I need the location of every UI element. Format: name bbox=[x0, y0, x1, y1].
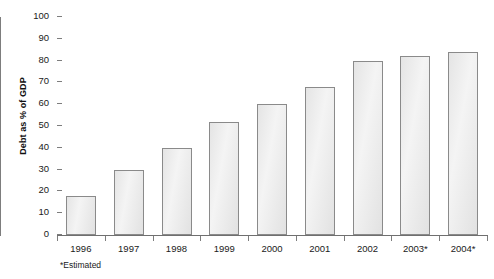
x-axis-tick-mark bbox=[391, 236, 392, 241]
bar bbox=[448, 52, 478, 235]
x-axis-tick-mark bbox=[296, 236, 297, 241]
y-axis-tick-label: 50 bbox=[38, 119, 49, 130]
plot-area: 1009080706050403020100 bbox=[57, 17, 487, 235]
x-axis-tick-mark bbox=[344, 236, 345, 241]
bar-column bbox=[57, 17, 105, 235]
bar-column bbox=[153, 17, 201, 235]
x-axis-tick-mark bbox=[248, 236, 249, 241]
bar bbox=[353, 61, 383, 235]
y-axis-tick-label: 90 bbox=[38, 32, 49, 43]
bar bbox=[162, 148, 192, 235]
bar bbox=[114, 170, 144, 235]
bar bbox=[209, 122, 239, 235]
bar-chart: Debt as % of GDP 1009080706050403020100 … bbox=[0, 0, 494, 279]
bar-column bbox=[296, 17, 344, 235]
y-axis-tick-label: 0 bbox=[44, 228, 49, 239]
x-axis-tick-mark bbox=[57, 236, 58, 241]
x-axis-tick-mark bbox=[153, 236, 154, 241]
x-axis-tick-mark bbox=[105, 236, 106, 241]
bar-column bbox=[391, 17, 439, 235]
bar-column bbox=[200, 17, 248, 235]
x-axis-tick-mark bbox=[439, 236, 440, 241]
y-axis-tick-label: 70 bbox=[38, 75, 49, 86]
y-axis-tick-label: 80 bbox=[38, 54, 49, 65]
y-axis-tick-label: 20 bbox=[38, 184, 49, 195]
bar-column bbox=[344, 17, 392, 235]
chart-footnote: *Estimated bbox=[60, 260, 101, 270]
x-axis-tick-mark bbox=[200, 236, 201, 241]
bar-column bbox=[248, 17, 296, 235]
y-axis-title: Debt as % of GDP bbox=[18, 41, 28, 191]
bar bbox=[305, 87, 335, 235]
bar bbox=[400, 56, 430, 235]
bar-column bbox=[105, 17, 153, 235]
bar bbox=[257, 104, 287, 235]
y-axis-tick-label: 10 bbox=[38, 206, 49, 217]
bar-column bbox=[439, 17, 487, 235]
bar bbox=[66, 196, 96, 235]
y-axis-tick-label: 60 bbox=[38, 97, 49, 108]
x-axis-tick-mark bbox=[487, 236, 488, 241]
x-axis-line bbox=[57, 235, 488, 236]
y-axis-tick-label: 100 bbox=[33, 10, 49, 21]
x-axis-tick-label: 2004* bbox=[433, 243, 493, 254]
y-axis-line bbox=[0, 17, 1, 236]
y-axis-tick-label: 40 bbox=[38, 141, 49, 152]
y-axis-tick-label: 30 bbox=[38, 163, 49, 174]
